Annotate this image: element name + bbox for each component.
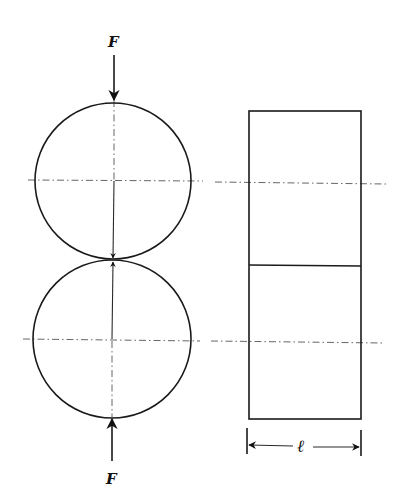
force-label-top: F <box>107 33 120 51</box>
bottom-radius-arrow <box>112 262 113 339</box>
top-radius-arrow <box>113 181 114 258</box>
centerline-bottom-left <box>23 339 200 341</box>
force-label-bottom: F <box>105 470 118 488</box>
centerline-top-left <box>28 180 203 181</box>
centerlines <box>23 100 386 418</box>
dimension-arrow-left <box>249 445 293 446</box>
contact-line <box>249 265 361 266</box>
contact-diagram: F F ℓ <box>0 0 400 498</box>
length-label: ℓ <box>297 436 304 456</box>
centerline-bottom-right <box>211 341 383 343</box>
length-dimension: ℓ <box>247 428 361 456</box>
